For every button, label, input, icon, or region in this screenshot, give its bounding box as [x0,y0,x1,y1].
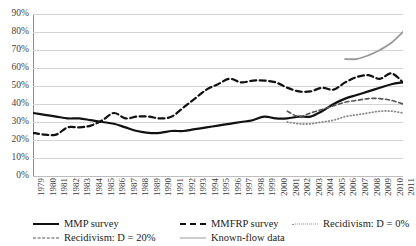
x-tick-label: 2004 [326,178,335,196]
y-tick-label: 80% [12,27,29,37]
legend-swatch-icon [180,233,206,243]
x-tick-label: 2001 [292,178,301,196]
x-tick-label: 1985 [107,178,116,196]
y-axis: 90%80%70%60%50%40%30%20%10%0% [0,0,33,190]
x-tick-label: 1991 [176,178,185,196]
y-tick-label: 10% [12,153,29,163]
legend-label: MMFRP survey [211,218,279,229]
x-tick-label: 1987 [130,178,139,196]
x-axis: 1979198019811982198319841985198619871988… [33,178,403,212]
y-tick-label: 30% [12,117,29,127]
x-tick-label: 1998 [257,178,266,196]
x-tick-label: 2003 [315,178,324,196]
legend-item[interactable]: Recidivism: D = 20% [33,232,155,243]
y-tick-label: 60% [12,63,29,73]
x-tick-label: 2002 [303,178,312,196]
legend-swatch-icon [33,233,59,243]
legend-item[interactable]: Recidivism: D = 0% [292,218,409,229]
legend-swatch-icon [33,219,59,229]
x-tick-label: 1994 [211,178,220,196]
x-tick-label: 2011 [407,178,416,196]
series-layer [33,14,403,176]
x-tick-label: 2010 [396,178,405,196]
x-tick-label: 1999 [268,178,277,196]
x-tick-label: 1989 [153,178,162,196]
x-tick-label: 1979 [37,178,46,196]
legend-label: Recidivism: D = 20% [64,232,155,243]
x-tick-label: 1995 [222,178,231,196]
y-tick-label: 40% [12,99,29,109]
legend-item[interactable]: Known-flow data [180,232,285,243]
series-line [287,98,403,116]
x-tick-label: 1990 [164,178,173,196]
x-tick-label: 1986 [118,178,127,196]
y-tick-label: 70% [12,45,29,55]
legend-label: Known-flow data [211,232,285,243]
x-tick-label: 1984 [95,178,104,196]
x-tick-label: 1980 [49,178,58,196]
series-line [345,32,403,59]
legend-swatch-icon [180,219,206,229]
legend-swatch-icon [292,219,318,229]
gridline-0 [33,176,403,177]
x-tick-label: 1992 [188,178,197,196]
x-tick-label: 2005 [338,178,347,196]
y-tick-label: 0% [16,171,29,181]
legend-item[interactable]: MMFRP survey [180,218,279,229]
x-tick-label: 2008 [373,178,382,196]
legend-item[interactable]: MMP survey [33,218,119,229]
x-tick-label: 1982 [72,178,81,196]
x-tick-label: 1996 [234,178,243,196]
legend-label: Recidivism: D = 0% [323,218,409,229]
x-tick-label: 1993 [199,178,208,196]
y-tick-label: 50% [12,81,29,91]
legend-label: MMP survey [64,218,119,229]
x-tick-label: 1981 [60,178,69,196]
y-tick-label: 20% [12,135,29,145]
x-tick-label: 2007 [361,178,370,196]
y-tick-label: 90% [12,9,29,19]
x-tick-label: 1983 [83,178,92,196]
x-tick-label: 2000 [280,178,289,196]
chart-legend: MMP surveyMMFRP surveyRecidivism: D = 0%… [0,216,406,246]
x-tick-label: 2009 [384,178,393,196]
x-tick-label: 1988 [141,178,150,196]
x-tick-label: 2006 [349,178,358,196]
x-tick-label: 1997 [245,178,254,196]
plot-area [33,14,403,176]
